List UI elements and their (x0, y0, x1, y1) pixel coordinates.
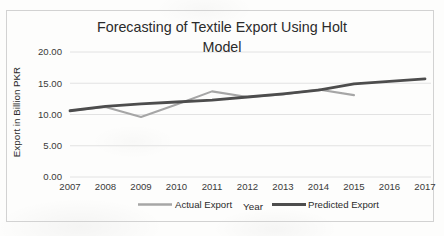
x-tick-label: 2007 (59, 181, 80, 192)
x-axis-title: Year (243, 201, 264, 212)
x-tick-label: 2015 (343, 181, 364, 192)
x-tick-label: 2017 (414, 181, 435, 192)
y-axis-title: Export in Billion PKR (11, 67, 22, 157)
y-axis-tick-labels: 0.005.0010.0015.0020.00 (38, 46, 62, 182)
x-tick-label: 2009 (130, 181, 151, 192)
series-line-actual-export (70, 90, 354, 118)
y-tick-label: 5.00 (43, 140, 62, 151)
x-axis-tick-labels: 2007200820092010201120122013201420152016… (59, 181, 435, 192)
data-series-group (70, 79, 425, 117)
x-tick-label: 2014 (308, 181, 330, 192)
y-tick-label: 15.00 (38, 78, 62, 89)
y-tick-label: 20.00 (38, 46, 62, 57)
chart-title-line2: Model (203, 39, 242, 55)
x-tick-label: 2008 (95, 181, 116, 192)
x-tick-label: 2011 (202, 181, 223, 192)
x-tick-label: 2010 (166, 181, 187, 192)
chart-title-line1: Forecasting of Textile Export Using Holt (97, 19, 347, 35)
gridlines (70, 52, 431, 177)
x-tick-label: 2013 (272, 181, 293, 192)
legend-label-actual-export: Actual Export (175, 199, 232, 210)
line-chart: 0.005.0010.0015.0020.00 2007200820092010… (0, 0, 444, 236)
y-tick-label: 10.00 (38, 109, 62, 120)
legend-label-predicted-export: Predicted Export (308, 199, 379, 210)
x-tick-label: 2012 (237, 181, 258, 192)
x-tick-label: 2016 (379, 181, 400, 192)
